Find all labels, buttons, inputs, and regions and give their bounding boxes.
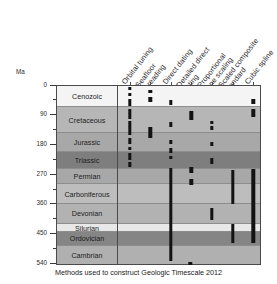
geologic-timescale-figure: Orbital tuningSeafloor spreadingDirect d… xyxy=(0,0,277,284)
period-band-silurian: Silurian xyxy=(57,224,260,232)
period-label-ordovician: Ordovician xyxy=(57,234,117,243)
y-tick-label-450: 450 xyxy=(27,229,47,236)
period-band-triassic: Triassic xyxy=(57,152,260,169)
data-mark xyxy=(169,168,172,261)
data-mark xyxy=(210,121,213,125)
column-tick-4 xyxy=(191,82,192,86)
data-mark xyxy=(231,224,234,243)
data-mark xyxy=(210,158,213,165)
data-mark xyxy=(128,162,131,167)
period-band-permian: Permian xyxy=(57,169,260,185)
y-tick-label-180: 180 xyxy=(27,140,47,147)
data-mark xyxy=(128,99,131,106)
data-mark xyxy=(128,93,131,96)
column-header-group: Orbital tuningSeafloor spreadingDirect d… xyxy=(0,0,277,80)
data-mark xyxy=(149,97,152,102)
y-tick-label-90: 90 xyxy=(27,110,47,117)
y-tick-label-0: 0 xyxy=(27,81,47,88)
data-mark xyxy=(210,142,213,147)
period-label-silurian: Silurian xyxy=(57,223,117,232)
data-mark xyxy=(251,109,254,117)
period-label-carboniferous: Carboniferous xyxy=(57,189,117,198)
period-label-triassic: Triassic xyxy=(57,155,117,164)
data-mark xyxy=(251,169,254,243)
data-mark xyxy=(231,170,234,204)
column-tick-3 xyxy=(171,82,172,86)
period-band-cenozoic: Cenozoic xyxy=(57,86,260,108)
column-tick-5 xyxy=(212,82,213,86)
data-mark xyxy=(190,111,193,120)
data-mark xyxy=(128,121,131,135)
data-mark xyxy=(169,100,172,105)
data-mark xyxy=(190,179,193,185)
column-tick-7 xyxy=(253,82,254,86)
data-mark xyxy=(128,87,131,90)
period-band-devonian: Devonian xyxy=(57,204,260,224)
data-mark xyxy=(149,90,152,93)
data-mark xyxy=(149,127,152,138)
axis-unit-label: Ma xyxy=(16,68,25,75)
data-mark xyxy=(128,153,131,160)
label-separator xyxy=(117,86,118,264)
data-mark xyxy=(210,126,213,129)
period-band-jurassic: Jurassic xyxy=(57,133,260,151)
data-mark xyxy=(169,122,172,127)
data-mark xyxy=(190,167,193,173)
data-mark-outside-frame xyxy=(189,262,192,265)
data-mark xyxy=(128,138,131,144)
period-label-permian: Permian xyxy=(57,171,117,180)
period-label-devonian: Devonian xyxy=(57,209,117,218)
data-mark xyxy=(169,156,172,159)
figure-caption: Methods used to construct Geologic Times… xyxy=(0,268,277,277)
data-mark xyxy=(210,208,213,220)
period-band-cambrian: Cambrian xyxy=(57,246,260,264)
data-mark xyxy=(169,148,172,153)
period-band-cretaceous: Cretaceous xyxy=(57,107,260,133)
y-tick-label-540: 540 xyxy=(27,259,47,266)
data-mark xyxy=(128,147,131,150)
data-mark xyxy=(128,109,131,119)
column-tick-2 xyxy=(150,82,151,86)
y-tick-label-270: 270 xyxy=(27,170,47,177)
period-label-jurassic: Jurassic xyxy=(57,138,117,147)
period-label-cenozoic: Cenozoic xyxy=(57,91,117,100)
y-tick-label-360: 360 xyxy=(27,199,47,206)
column-tick-1 xyxy=(130,82,131,86)
plot-area: CenozoicCretaceousJurassicTriassicPermia… xyxy=(56,85,261,265)
data-mark xyxy=(251,99,254,104)
period-band-carboniferous: Carboniferous xyxy=(57,184,260,204)
column-tick-6 xyxy=(233,82,234,86)
data-mark xyxy=(169,140,172,144)
period-label-cretaceous: Cretaceous xyxy=(57,115,117,124)
period-band-ordovician: Ordovician xyxy=(57,232,260,246)
period-label-cambrian: Cambrian xyxy=(57,250,117,259)
